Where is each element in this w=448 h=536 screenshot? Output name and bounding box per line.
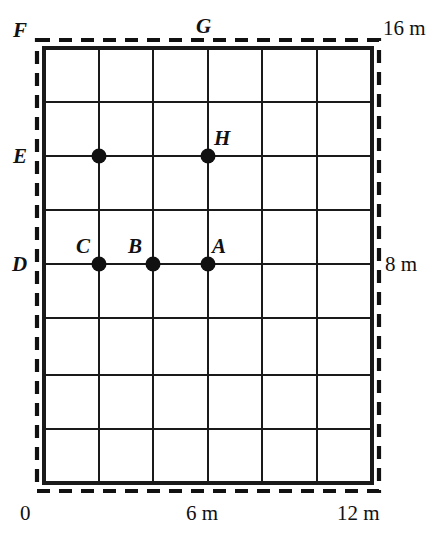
diagram-canvas — [0, 0, 448, 536]
label-G: G — [196, 16, 211, 37]
point-marker-b — [146, 257, 161, 272]
label-C: C — [76, 236, 90, 257]
axis-label-16m: 16 m — [383, 18, 426, 39]
label-A: A — [212, 236, 226, 257]
label-F: F — [13, 20, 27, 41]
label-E: E — [13, 146, 27, 167]
label-D: D — [12, 254, 27, 275]
point-marker-a — [201, 257, 216, 272]
point-marker-h — [201, 149, 216, 164]
point-marker-c — [92, 257, 107, 272]
grid-field-diagram: HCBA FGED 16 m 8 m 0 6 m 12 m — [0, 0, 448, 536]
point-marker-e-marker — [92, 149, 107, 164]
label-B: B — [128, 236, 142, 257]
axis-label-6m: 6 m — [186, 503, 218, 524]
axis-label-12m: 12 m — [337, 503, 380, 524]
label-H: H — [214, 128, 230, 149]
axis-label-0: 0 — [20, 503, 31, 524]
axis-label-8m: 8 m — [385, 254, 417, 275]
